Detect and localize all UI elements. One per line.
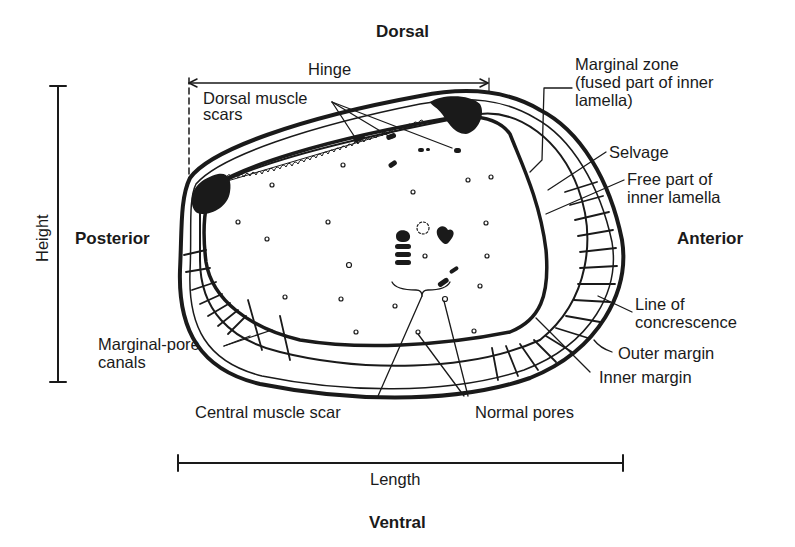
normal-pores	[236, 163, 493, 334]
label-dorsal: Dorsal	[376, 23, 429, 41]
label-marginal-pore-canals: Marginal-pore canals	[98, 335, 200, 371]
label-height: Height	[33, 214, 51, 262]
label-central-muscle-scar: Central muscle scar	[195, 403, 341, 421]
inner-margin-line	[204, 117, 547, 346]
posterior-hinge-element	[192, 174, 231, 214]
muscle-scars	[192, 96, 482, 288]
label-line-of-concrescence: Line of concrescence	[635, 295, 737, 331]
height-dimension-line	[50, 86, 66, 382]
label-inner-margin: Inner margin	[599, 368, 692, 386]
length-dimension-line	[178, 455, 623, 471]
label-hinge: Hinge	[308, 60, 351, 78]
anterior-hinge-element	[430, 96, 482, 134]
label-length: Length	[370, 470, 420, 488]
label-normal-pores: Normal pores	[475, 403, 574, 421]
label-posterior: Posterior	[75, 230, 150, 248]
label-outer-margin: Outer margin	[618, 344, 714, 362]
label-ventral: Ventral	[369, 514, 426, 532]
label-marginal-zone: Marginal zone (fused part of inner lamel…	[575, 55, 714, 109]
label-anterior: Anterior	[677, 230, 743, 248]
line-of-concrescence	[200, 114, 587, 366]
label-selvage: Selvage	[609, 143, 669, 161]
label-dorsal-muscle-scars: Dorsal muscle scars	[203, 90, 308, 122]
label-free-part-inner-lamella: Free part of inner lamella	[627, 170, 721, 206]
